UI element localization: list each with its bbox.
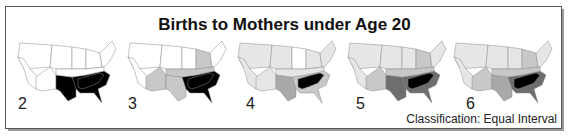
us-map <box>448 37 556 107</box>
state-region-sw <box>472 67 492 91</box>
state-region-ne <box>210 41 226 67</box>
class-count-label: 4 <box>246 95 255 113</box>
state-region-plains <box>402 47 416 69</box>
state-region-plains <box>72 47 86 69</box>
figure-title: Births to Mothers under Age 20 <box>6 15 563 35</box>
frame-shadow <box>8 129 564 131</box>
state-region-mw <box>86 49 102 69</box>
state-region-mw <box>522 49 538 69</box>
state-region-plains <box>508 47 522 69</box>
state-region-sw <box>36 67 56 91</box>
state-region-plains <box>292 47 306 69</box>
state-region-ne <box>320 41 336 67</box>
state-region-mtn <box>486 45 508 69</box>
map-2-classes <box>12 37 120 107</box>
state-region-mw <box>416 49 432 69</box>
class-count-label: 6 <box>466 95 475 113</box>
state-region-mw <box>196 49 212 69</box>
state-region-plains <box>182 47 196 69</box>
state-region-ne <box>100 41 116 67</box>
frame-shadow <box>562 9 564 131</box>
us-map <box>122 37 230 107</box>
map-6-classes <box>448 37 556 107</box>
classification-caption: Classification: Equal Interval <box>406 112 557 126</box>
state-region-mtn <box>380 45 402 69</box>
state-region-sw <box>146 67 166 91</box>
state-region-mtn <box>50 45 72 69</box>
state-region-sw <box>366 67 386 91</box>
state-region-mtn <box>160 45 182 69</box>
us-map <box>12 37 120 107</box>
state-region-sw <box>256 67 276 91</box>
state-region-mw <box>306 49 322 69</box>
state-region-mtn <box>270 45 292 69</box>
figure-frame: Births to Mothers under Age 20 2 3 4 5 6… <box>5 6 562 129</box>
state-region-ne <box>430 41 446 67</box>
map-3-classes <box>122 37 230 107</box>
class-count-label: 5 <box>356 95 365 113</box>
class-count-label: 3 <box>128 95 137 113</box>
state-region-ne <box>536 41 552 67</box>
class-count-label: 2 <box>18 95 27 113</box>
